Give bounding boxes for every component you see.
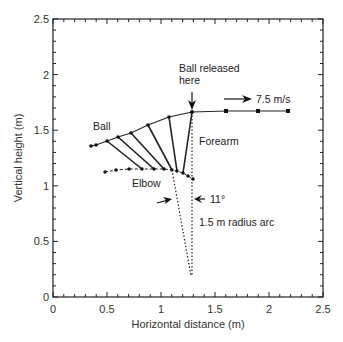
y-tick-labels: 0 0.5 1 1.5 2 2.5 bbox=[34, 13, 49, 303]
elbow-label: Elbow bbox=[132, 177, 161, 189]
x-axis-title: Horizontal distance (m) bbox=[131, 318, 244, 330]
release-label-line1: Ball released bbox=[179, 62, 240, 74]
x-tick-labels: 0 0.5 1 1.5 2 2.5 bbox=[50, 303, 331, 315]
y-tick-label: 2 bbox=[43, 69, 49, 81]
x-tick-label: 0 bbox=[50, 303, 56, 315]
y-axis-title: Vertical height (m) bbox=[12, 114, 24, 203]
radius-line-left bbox=[172, 170, 191, 276]
arc-label: 1.5 m radius arc bbox=[199, 216, 274, 228]
chart: 0 0.5 1 1.5 2 2.5 0 0.5 1 1.5 2 2.5 Hori… bbox=[0, 0, 343, 342]
y-tick-label: 2.5 bbox=[34, 13, 49, 25]
angle-label: 11° bbox=[210, 193, 225, 205]
axis-ticks bbox=[53, 19, 323, 297]
forearm-label: Forearm bbox=[199, 135, 239, 147]
x-tick-label: 2.5 bbox=[315, 303, 330, 315]
x-tick-label: 0.5 bbox=[99, 303, 114, 315]
plot-frame bbox=[53, 19, 323, 297]
ball-label: Ball bbox=[93, 120, 111, 132]
forearm-segments bbox=[107, 112, 192, 173]
y-tick-label: 1.5 bbox=[34, 124, 49, 136]
y-tick-label: 1 bbox=[43, 180, 49, 192]
y-tick-label: 0.5 bbox=[34, 235, 49, 247]
x-tick-label: 1.5 bbox=[207, 303, 222, 315]
y-tick-label: 0 bbox=[43, 291, 49, 303]
x-tick-label: 1 bbox=[158, 303, 164, 315]
release-label-line2: here bbox=[179, 74, 200, 86]
speed-label: 7.5 m/s bbox=[256, 93, 290, 105]
x-tick-label: 2 bbox=[266, 303, 272, 315]
